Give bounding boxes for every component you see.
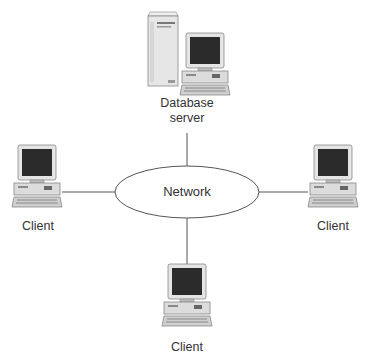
client-bottom-icon [162, 264, 212, 326]
server-label: Database server [137, 96, 237, 126]
client-right-label: Client [305, 219, 361, 234]
client-left-icon [12, 145, 62, 207]
client-left-label: Client [10, 219, 66, 234]
server-tower-icon [148, 12, 178, 86]
client-right-icon [308, 145, 358, 207]
server-label-line2: server [137, 111, 237, 126]
network-diagram [0, 0, 373, 360]
server-label-line1: Database [137, 96, 237, 111]
server-monitor-icon [180, 33, 230, 95]
network-label: Network [147, 184, 227, 199]
client-bottom-label: Client [159, 340, 215, 355]
